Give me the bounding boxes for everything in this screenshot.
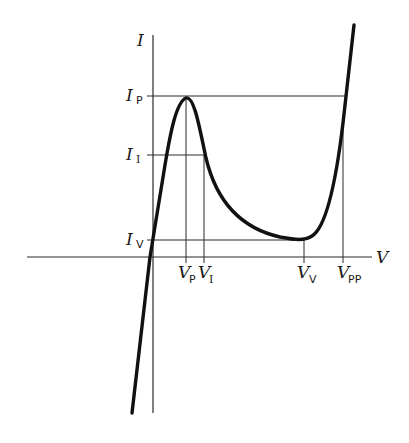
ii-label: I I — [125, 144, 140, 166]
svg-text:I: I — [125, 85, 133, 105]
svg-text:V: V — [136, 238, 144, 251]
svg-text:I: I — [136, 153, 140, 166]
vp-label: V P — [178, 262, 196, 286]
y-axis-label: I — [136, 30, 144, 50]
ip-label: I P — [125, 85, 143, 107]
iv-label: I V — [125, 229, 144, 251]
svg-text:PP: PP — [348, 273, 362, 286]
diagram-svg: I V I P I I I V V P V I V V V PP — [0, 0, 409, 443]
svg-text:P: P — [189, 273, 196, 286]
svg-text:I: I — [209, 273, 213, 286]
svg-text:V: V — [309, 273, 317, 286]
vpp-label: V PP — [337, 262, 362, 286]
vi-label: V I — [198, 262, 213, 286]
svg-text:P: P — [136, 94, 143, 107]
svg-text:I: I — [125, 229, 133, 249]
iv-curve — [132, 25, 354, 413]
tunnel-diode-iv-diagram: I V I P I I I V V P V I V V V PP — [0, 0, 409, 443]
x-axis-label: V — [376, 247, 390, 267]
svg-text:I: I — [125, 144, 133, 164]
vv-label: V V — [297, 262, 317, 286]
